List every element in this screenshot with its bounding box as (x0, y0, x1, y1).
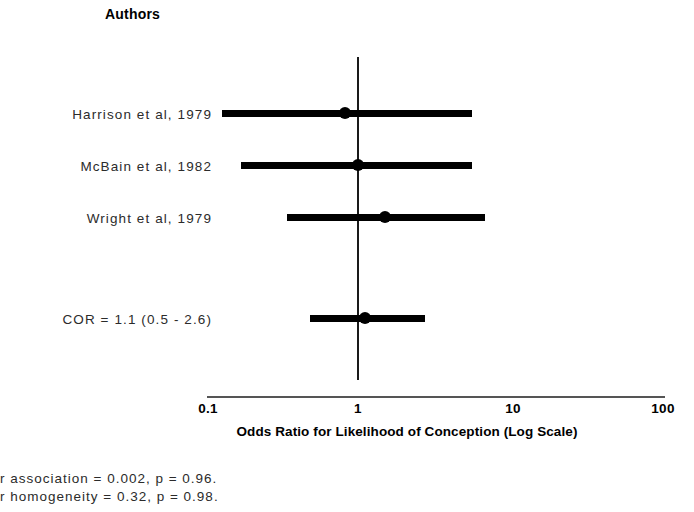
x-axis-line (207, 396, 665, 398)
ci-bar-wright (287, 214, 485, 221)
point-estimate-wright (379, 211, 391, 223)
x-tick-2: 10 (505, 401, 521, 416)
summary-label-cor: COR = 1.1 (0.5 - 2.6) (0, 312, 212, 327)
point-estimate-mcbain (352, 159, 364, 171)
study-label-wright: Wright et al, 1979 (0, 211, 212, 226)
x-tick-0: 0.1 (198, 401, 218, 416)
study-label-harrison: Harrison et al, 1979 (0, 107, 212, 122)
ci-bar-harrison (222, 110, 472, 117)
footnote-association: r association = 0.002, p = 0.96. (0, 471, 217, 486)
point-estimate-harrison (339, 107, 351, 119)
x-tick-3: 100 (651, 401, 674, 416)
x-axis-title: Odds Ratio for Likelihood of Conception … (0, 424, 694, 439)
null-effect-reference-line (357, 57, 359, 380)
point-estimate-summary-cor (359, 312, 371, 324)
ci-bar-mcbain (241, 162, 472, 169)
footnote-homogeneity: r homogeneity = 0.32, p = 0.98. (0, 489, 219, 504)
ci-bar-summary-cor (310, 315, 425, 322)
study-label-mcbain: McBain et al, 1982 (0, 159, 212, 174)
x-tick-1: 1 (354, 401, 362, 416)
forest-plot-figure: Authors Harrison et al, 1979 McBain et a… (0, 0, 694, 512)
authors-column-header: Authors (105, 6, 160, 22)
